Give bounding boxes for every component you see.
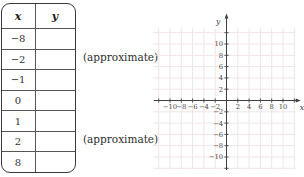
svg-text:−6: −6: [213, 131, 223, 139]
svg-text:−8: −8: [176, 103, 186, 111]
svg-text:10: 10: [279, 103, 288, 111]
y-answer-blank[interactable]: [36, 50, 75, 70]
x-value: 1: [2, 111, 36, 131]
y-answer-blank[interactable]: [36, 152, 75, 172]
x-value: −1: [2, 70, 36, 90]
svg-text:−2: −2: [213, 108, 223, 116]
svg-text:8: 8: [219, 52, 223, 60]
svg-text:2: 2: [236, 103, 240, 111]
svg-text:10: 10: [215, 40, 224, 48]
y-answer-blank[interactable]: [36, 132, 75, 152]
svg-text:−4: −4: [213, 120, 223, 128]
column-header-y: y: [36, 4, 75, 28]
y-answer-blank[interactable]: [36, 111, 75, 131]
xy-table-body: −8−2−10128: [2, 28, 75, 172]
x-value: 0: [2, 91, 36, 111]
svg-text:8: 8: [270, 103, 274, 111]
table-row: −2: [2, 49, 75, 70]
table-row: 8: [2, 151, 75, 172]
table-header-row: x y: [2, 4, 75, 28]
svg-text:2: 2: [219, 86, 223, 94]
table-row: 1: [2, 110, 75, 131]
x-value: 8: [2, 152, 36, 172]
svg-text:6: 6: [258, 103, 262, 111]
svg-text:−10: −10: [163, 103, 177, 111]
x-value: −2: [2, 50, 36, 70]
table-row: 2: [2, 131, 75, 152]
svg-text:4: 4: [247, 103, 251, 111]
column-header-x: x: [2, 4, 36, 28]
coordinate-grid[interactable]: −10−8−6−4−2246810−10−8−6−4−2246810xy: [150, 0, 304, 177]
svg-text:4: 4: [219, 74, 223, 82]
table-row: −1: [2, 69, 75, 90]
svg-text:−8: −8: [213, 142, 223, 150]
svg-text:−4: −4: [199, 103, 209, 111]
svg-text:−6: −6: [188, 103, 198, 111]
y-answer-blank[interactable]: [36, 70, 75, 90]
approximate-note-1: (approximate): [83, 51, 155, 64]
x-value: 2: [2, 132, 36, 152]
table-row: −8: [2, 28, 75, 49]
table-row: 0: [2, 90, 75, 111]
xy-table: x y −8−2−10128: [1, 3, 76, 173]
svg-text:−10: −10: [209, 153, 223, 161]
y-answer-blank[interactable]: [36, 91, 75, 111]
x-value: −8: [2, 29, 36, 49]
svg-text:6: 6: [219, 63, 223, 71]
svg-text:y: y: [215, 17, 221, 26]
svg-text:x: x: [300, 103, 304, 112]
y-answer-blank[interactable]: [36, 29, 75, 49]
approximate-note-2: (approximate): [83, 133, 155, 146]
